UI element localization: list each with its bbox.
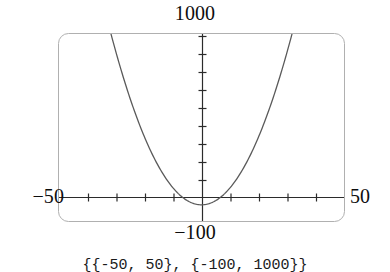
x-axis-max-label: 50 xyxy=(350,186,388,206)
y-axis-min-label: −100 xyxy=(0,222,390,242)
x-axis-min-label: −50 xyxy=(8,186,64,206)
parabola-curve xyxy=(111,34,292,205)
plot-frame xyxy=(59,34,345,222)
y-axis-max-label: 1000 xyxy=(0,3,390,23)
plot-range-caption: {{-50, 50}, {-100, 1000}} xyxy=(0,258,390,272)
plot-figure: 1000 −100 −50 50 {{-50, 50}, {-100, 1000… xyxy=(0,0,390,272)
